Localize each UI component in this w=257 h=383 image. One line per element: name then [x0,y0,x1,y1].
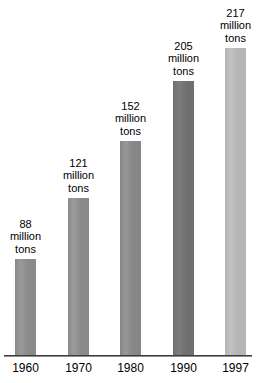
bar-group-1960: 88 million tons [15,259,36,356]
bar-value-label-1980: 152 million tons [115,100,146,138]
bar-value-unit-line2-1960: tons [10,243,41,256]
bar-value-label-1990: 205 million tons [168,40,199,78]
bar-value-number-1997: 217 [220,7,251,20]
bar-rect-1997 [225,48,246,356]
bar-value-unit-line2-1980: tons [115,125,146,138]
bar-value-unit-line2-1970: tons [63,182,94,195]
bar-value-label-1970: 121 million tons [63,157,94,195]
bar-rect-1980 [120,141,141,356]
bar-rect-1990 [173,81,194,356]
bar-rect-1970 [68,198,89,356]
plot-area: 88 million tons 121 million tons 152 mil… [0,0,256,356]
x-axis-tick-labels: 1960 1970 1980 1990 1997 [0,360,256,380]
bar-group-1997: 217 million tons [225,48,246,356]
x-tick-label-1980: 1980 [109,360,153,376]
bar-value-unit-line2-1997: tons [220,32,251,45]
bar-value-number-1970: 121 [63,157,94,170]
x-tick-label-1997: 1997 [214,360,257,376]
bar-value-label-1997: 217 million tons [220,7,251,45]
bar-chart-figure: 88 million tons 121 million tons 152 mil… [0,0,256,383]
bar-group-1980: 152 million tons [120,141,141,356]
bar-group-1970: 121 million tons [68,198,89,356]
bar-value-number-1980: 152 [115,100,146,113]
x-tick-label-1990: 1990 [162,360,206,376]
bar-rect-1960 [15,259,36,356]
bar-value-unit-line1-1990: million [168,52,199,65]
x-tick-label-1970: 1970 [57,360,101,376]
bar-value-unit-line1-1997: million [220,19,251,32]
bar-value-unit-line1-1980: million [115,112,146,125]
x-axis-baseline [4,355,252,357]
bar-value-number-1990: 205 [168,40,199,53]
bar-group-1990: 205 million tons [173,81,194,356]
bar-value-number-1960: 88 [10,218,41,231]
bar-value-unit-line2-1990: tons [168,65,199,78]
bar-value-unit-line1-1970: million [63,169,94,182]
x-tick-label-1960: 1960 [4,360,48,376]
bar-value-label-1960: 88 million tons [10,218,41,256]
bar-value-unit-line1-1960: million [10,230,41,243]
